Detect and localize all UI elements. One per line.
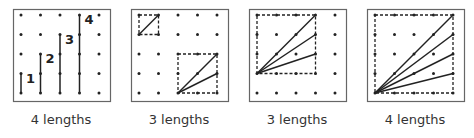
peg-dot [216,33,219,36]
peg-dot [334,53,337,56]
peg-dot [216,92,219,95]
peg-dot [413,14,416,17]
peg-dot [256,33,259,36]
peg-dot [196,92,199,95]
peg-dot [432,53,435,56]
peg-dot [393,33,396,36]
peg-dot [138,14,141,17]
peg-dot [334,33,337,36]
peg-dot [334,14,337,17]
segment-label: 4 [85,12,94,27]
peg-dot [157,92,160,95]
segment-label: 1 [26,71,35,86]
peg-dot [295,14,298,17]
peg-dot [275,72,278,75]
peg-dot [295,53,298,56]
peg-dot [275,92,278,95]
peg-dot [98,33,101,36]
peg-dot [334,92,337,95]
segment-label: 2 [46,51,55,66]
peg-dot [334,72,337,75]
peg-dot [432,14,435,17]
peg-dot [314,72,317,75]
peg-dot [256,92,259,95]
peg-dot [20,53,23,56]
peg-dot [98,53,101,56]
peg-dot [20,33,23,36]
peg-dot [393,14,396,17]
panel-1-frame [14,10,111,102]
panel-3-frame [250,10,347,102]
peg-dot [138,53,141,56]
peg-dot [177,72,180,75]
peg-dot [393,53,396,56]
peg-dot [138,72,141,75]
peg-dot [196,53,199,56]
peg-dot [177,33,180,36]
peg-dot [295,72,298,75]
peg-dot [413,33,416,36]
peg-dot [275,14,278,17]
peg-dot [374,14,377,17]
peg-dot [98,72,101,75]
peg-dot [393,92,396,95]
peg-dot [413,92,416,95]
peg-dot [374,33,377,36]
peg-dot [452,92,455,95]
panel-2-frame [132,10,229,102]
peg-dot [432,92,435,95]
peg-dot [295,92,298,95]
peg-dot [216,14,219,17]
peg-dot [157,72,160,75]
peg-dot [138,92,141,95]
peg-dot [177,14,180,17]
peg-dot [196,33,199,36]
panel-3-caption: 3 lengths [238,112,356,127]
panel-4-caption: 4 lengths [356,112,474,127]
peg-dot [39,33,42,36]
peg-dot [196,14,199,17]
peg-dot [98,14,101,17]
peg-dot [256,14,259,17]
peg-dot [177,53,180,56]
peg-dot [256,53,259,56]
peg-dot [59,14,62,17]
peg-dot [157,53,160,56]
peg-dot [98,92,101,95]
peg-dot [39,14,42,17]
peg-dot [20,14,23,17]
panel-1-caption: 4 lengths [2,112,120,127]
peg-dot [374,53,377,56]
peg-dot [432,72,435,75]
peg-dot [275,33,278,36]
segment-label: 3 [65,32,74,47]
panel-2-caption: 3 lengths [120,112,238,127]
peg-dot [314,92,317,95]
peg-dot [374,72,377,75]
peg-dot [157,33,160,36]
